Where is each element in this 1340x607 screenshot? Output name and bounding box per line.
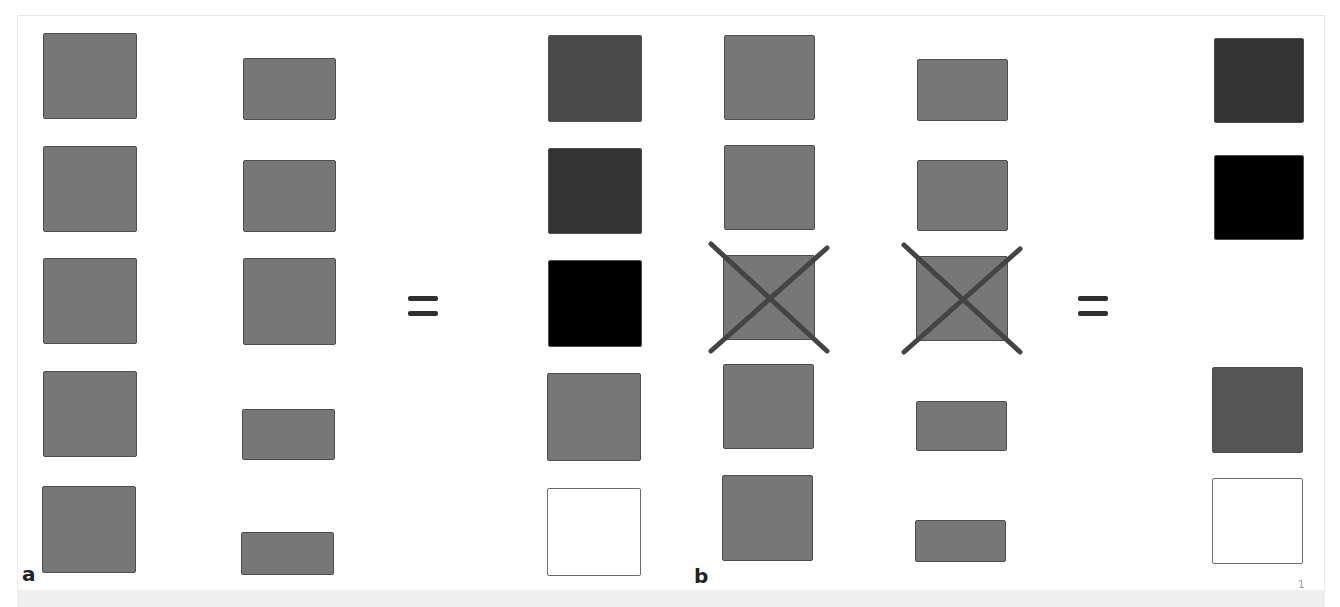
panel-a-result-column-box-3 [548,260,642,347]
panel-a-middle-column-box-3 [243,258,336,345]
panel-b-middle-column-box-5 [915,520,1006,562]
panel-b-middle-column-box-4 [916,401,1007,451]
equals-bar-top [408,296,438,301]
figure-page [17,15,1325,590]
panel-b-result-column-box-2 [1214,155,1304,240]
panel-b-result-column-box-3 [1212,367,1303,453]
panel-label-b: b [694,566,708,586]
equals-bar-bottom [1078,311,1108,316]
panel-b-left-column-box-4 [723,364,814,449]
panel-b-result-column-box-1 [1214,38,1304,123]
panel-b-middle-column-box-2 [917,160,1008,231]
panel-b-result-column-box-4 [1212,478,1303,564]
equals-bar-top [1078,296,1108,301]
panel-a-left-column-box-3 [43,258,137,344]
cross-out-icon [709,241,829,354]
equals-bar-bottom [408,311,438,316]
equals-sign-b [1078,296,1108,316]
panel-a-middle-column-box-2 [243,160,336,232]
panel-a-result-column-box-4 [547,373,641,461]
panel-a-middle-column-box-1 [243,58,336,120]
panel-a-left-column-box-4 [43,371,137,457]
page-bottom-strip [17,590,1325,607]
panel-a-result-column-box-1 [548,35,642,122]
panel-a-result-column-box-5 [547,488,641,576]
equals-sign-a [408,296,438,316]
panel-a-middle-column-box-5 [241,532,334,575]
panel-a-left-column-box-5 [42,486,136,573]
panel-a-left-column-box-2 [43,146,137,232]
panel-a-result-column-box-2 [548,148,642,234]
panel-b-middle-column-box-1 [917,59,1008,121]
panel-b-left-column-box-2 [724,145,815,230]
panel-a-left-column-box-1 [43,33,137,119]
panel-label-a: a [22,564,36,584]
page-number: 1 [1298,580,1304,590]
panel-b-left-column-box-1 [724,35,815,120]
panel-a-middle-column-box-4 [242,409,335,460]
panel-b-left-column-box-5 [722,475,813,561]
cross-out-icon [902,242,1022,355]
